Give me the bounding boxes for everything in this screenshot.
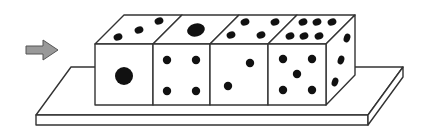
pip xyxy=(192,56,200,64)
pip xyxy=(279,86,287,94)
pip xyxy=(246,59,254,67)
pip xyxy=(293,70,301,78)
die-1-front-pips xyxy=(115,67,133,85)
pip xyxy=(308,86,316,94)
dice-diagram xyxy=(0,0,427,136)
pip xyxy=(192,87,200,95)
arrow-right-icon xyxy=(26,40,58,60)
platform-front-edge xyxy=(36,115,368,125)
die-2-front-face xyxy=(153,44,210,105)
pip xyxy=(163,56,171,64)
pip xyxy=(224,82,232,90)
pip xyxy=(163,87,171,95)
dice-diagram-svg xyxy=(0,0,427,136)
pip xyxy=(279,55,287,63)
pip xyxy=(308,55,316,63)
die-3-front-face xyxy=(210,44,268,105)
pip xyxy=(115,67,133,85)
